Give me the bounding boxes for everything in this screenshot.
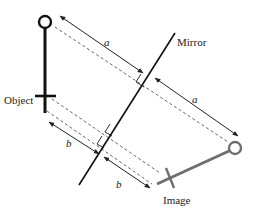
image-label: Image [163,194,191,206]
object-figure [35,16,56,113]
distance-label-a-upper: a [104,36,110,48]
right-angle-markers [97,74,144,148]
object-head-icon [39,16,51,28]
dashed-projection-lines [47,27,228,184]
image-figure [157,142,241,188]
image-head-icon [229,142,241,154]
distance-label-b-right: b [116,178,122,190]
distance-label-a-lower: a [192,93,198,105]
object-label: Object [4,94,33,106]
mirror-diagram: Mirror Object Image a a b b [0,0,257,215]
distance-label-b-left: b [66,137,72,149]
mirror-label: Mirror [177,36,207,48]
mirror-line [79,33,175,185]
distance-arrows-a [60,16,238,136]
